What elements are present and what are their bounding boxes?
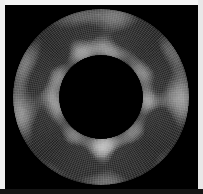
annulus-mesh-plot xyxy=(5,5,198,189)
figure-root xyxy=(0,0,203,194)
inner-hole xyxy=(59,55,143,139)
frame-edge-bottom xyxy=(0,189,203,194)
plot-area xyxy=(5,5,198,189)
frame-edge-right xyxy=(198,0,203,194)
